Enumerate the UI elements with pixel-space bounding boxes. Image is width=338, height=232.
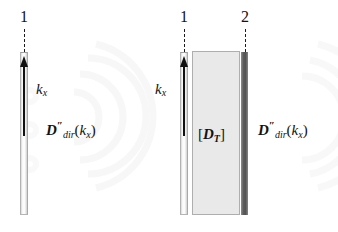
ddir-label-left: D″dir(kx) [46,120,96,140]
kx-label-right: kx [155,82,166,98]
kx-subscript: x [162,87,166,98]
dt-bracket-close: ] [220,126,225,142]
ddir-subscript: dir [63,129,75,140]
ddir-paren-close: ) [303,122,308,138]
kx-base: k [155,81,162,97]
interface-label-1-left: 1 [20,9,28,25]
kx-subscript: x [43,87,47,98]
kx-base: k [36,81,43,97]
ddir-base: D [46,122,57,138]
interface-bar-2-right [241,52,248,215]
watermark-arcs [0,0,338,232]
ddir-paren-close: ) [91,122,96,138]
ddir-subscript: dir [275,129,287,140]
ddir-base: D [258,122,269,138]
interface-label-2-right: 2 [241,9,249,25]
dt-base: D [203,126,214,142]
arrow-shaft [183,66,185,136]
dashed-guide-2-right [245,29,246,52]
interface-label-1-right: 1 [180,9,188,25]
ddir-label-right: D″dir(kx) [258,120,308,140]
kx-label-left: kx [36,82,47,98]
dashed-guide-1-right [184,29,185,52]
dt-label: [DT] [198,127,225,144]
arrow-shaft [23,66,25,136]
figure-canvas: 1 kx D″dir(kx) 1 2 kx [DT] D″dir(kx) [0,0,338,232]
dashed-guide-1-left [24,29,25,52]
